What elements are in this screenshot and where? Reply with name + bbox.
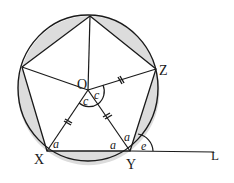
point-label-Y: Y [126, 157, 136, 172]
angle-arc-c-xoy [79, 103, 98, 107]
angle-label-c-left: c [83, 94, 89, 108]
angle-label-a-Y-left: a [110, 138, 116, 152]
angle-label-a-Y-upper: a [124, 130, 130, 144]
angle-label-c-right: c [94, 88, 100, 102]
point-label-Z: Z [159, 63, 168, 78]
point-label-L: L [211, 148, 219, 163]
point-label-O: O [77, 77, 87, 92]
pentagon-diagram: O Z X Y L a a a c c e [0, 0, 234, 183]
angle-label-a-X: a [53, 137, 59, 151]
angle-label-e: e [141, 139, 147, 153]
point-label-X: X [34, 152, 44, 167]
